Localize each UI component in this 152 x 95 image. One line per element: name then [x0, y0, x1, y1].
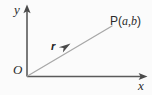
- position-vector-line: [28, 26, 113, 76]
- point-p-suffix: ): [137, 14, 141, 28]
- y-axis-label: y: [14, 3, 20, 16]
- x-axis-label: x: [138, 79, 144, 92]
- point-p-label: P(a,b): [110, 15, 141, 27]
- position-vector-diagram: y x O r P(a,b): [0, 0, 152, 95]
- origin-label: O: [13, 63, 22, 76]
- point-p-prefix: P(: [110, 14, 122, 28]
- vector-r-label: r: [51, 41, 55, 52]
